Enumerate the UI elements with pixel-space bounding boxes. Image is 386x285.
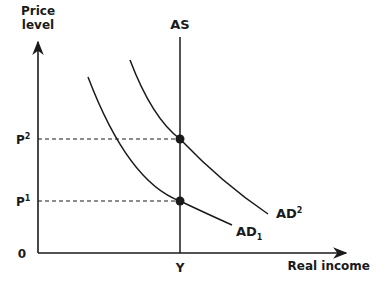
ad2-curve (130, 60, 268, 214)
p1-label: P1 (16, 194, 31, 209)
ad2-label-sup: 2 (297, 206, 303, 215)
p1-label-sup: 1 (25, 194, 31, 203)
x-axis-label: Real income (288, 259, 370, 273)
ad2-label: AD2 (276, 206, 302, 221)
p2-label-sup: 2 (25, 132, 31, 141)
as-label: AS (170, 17, 189, 32)
y-income-label: Y (175, 261, 185, 275)
ad1-label-base: AD (236, 224, 257, 239)
ad2-label-base: AD (276, 206, 297, 221)
ad1-label-sub: 1 (257, 233, 263, 242)
p2-label-base: P (16, 133, 25, 147)
y-axis-label-line2: level (22, 18, 54, 32)
equilibrium-point-ad1 (176, 197, 185, 206)
p1-label-base: P (16, 195, 25, 209)
equilibrium-point-ad2 (176, 135, 185, 144)
origin-label: 0 (18, 247, 26, 261)
p2-label: P2 (16, 132, 30, 147)
y-axis-label-line1: Price (21, 4, 55, 18)
ad1-curve (88, 77, 232, 225)
as-ad-diagram: Price level Real income 0 P2 P1 AS AD1 A… (0, 0, 386, 285)
ad1-label: AD1 (236, 224, 263, 242)
